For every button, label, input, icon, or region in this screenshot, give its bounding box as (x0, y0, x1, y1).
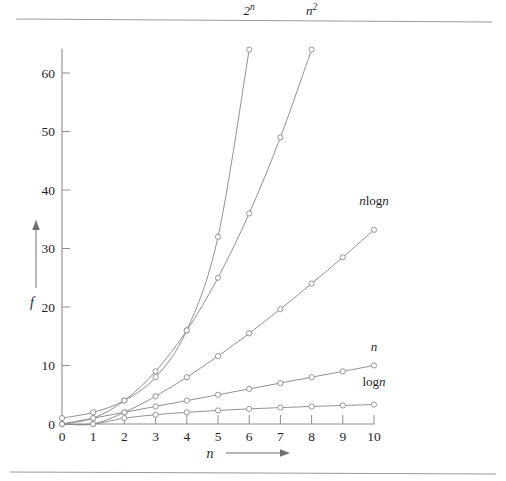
y-tick-label: 50 (42, 124, 56, 139)
data-point-marker (215, 275, 220, 280)
curve-line (62, 50, 249, 419)
data-point-marker (309, 281, 314, 286)
data-point-marker (340, 403, 345, 408)
series-layer (59, 47, 376, 427)
data-point-marker (122, 398, 127, 403)
growth-rate-chart: 0102030405060 012345678910 f n 2nn2nlogn… (0, 0, 506, 481)
data-point-marker (215, 408, 220, 413)
data-point-marker (153, 375, 158, 380)
curve-line (62, 50, 312, 424)
bottom-rule (10, 472, 496, 474)
data-point-marker (340, 255, 345, 260)
x-tick-label: 2 (121, 429, 128, 444)
data-point-marker (215, 234, 220, 239)
data-point-marker (309, 47, 314, 52)
figure-container: 0102030405060 012345678910 f n 2nn2nlogn… (0, 0, 506, 481)
x-tick-label: 1 (90, 429, 97, 444)
x-tick-label: 7 (277, 429, 284, 444)
data-point-marker (122, 410, 127, 415)
data-point-marker (184, 328, 189, 333)
y-tick-label: 60 (42, 66, 56, 81)
series-label-log-n: logn (362, 374, 385, 389)
data-point-marker (247, 406, 252, 411)
data-point-marker (91, 410, 96, 415)
data-point-marker (153, 404, 158, 409)
data-point-marker (91, 416, 96, 421)
y-tick-label: 40 (42, 183, 56, 198)
data-point-marker (215, 392, 220, 397)
data-point-marker (278, 306, 283, 311)
series-label-n-2: n2 (306, 2, 318, 18)
data-point-marker (122, 416, 127, 421)
data-point-marker (278, 380, 283, 385)
data-point-marker (309, 375, 314, 380)
x-axis-annotation: n (207, 446, 291, 461)
data-point-marker (247, 211, 252, 216)
data-point-marker (371, 402, 376, 407)
y-axis-label: f (30, 295, 36, 310)
data-point-marker (278, 405, 283, 410)
x-tick-label: 5 (215, 429, 222, 444)
top-rule (16, 19, 492, 22)
x-tick-label: 10 (367, 429, 381, 444)
series-2-n (59, 47, 251, 421)
data-point-marker (59, 416, 64, 421)
data-point-marker (371, 363, 376, 368)
data-point-marker (309, 404, 314, 409)
data-point-marker (153, 394, 158, 399)
data-point-marker (184, 410, 189, 415)
up-arrow-icon (32, 220, 40, 230)
data-point-marker (340, 369, 345, 374)
data-point-marker (247, 386, 252, 391)
data-point-marker (247, 331, 252, 336)
series-label-2-n: 2n (244, 2, 256, 18)
data-point-marker (59, 421, 64, 426)
right-arrow-icon (280, 449, 290, 457)
data-point-marker (184, 398, 189, 403)
data-point-marker (153, 369, 158, 374)
y-axis-ticks: 0102030405060 (42, 66, 71, 432)
data-point-marker (153, 412, 158, 417)
y-tick-label: 20 (42, 300, 56, 315)
y-tick-label: 10 (42, 358, 56, 373)
data-point-marker (184, 375, 189, 380)
series-label-n: n (371, 339, 378, 354)
data-point-marker (371, 227, 376, 232)
series-label-layer: 2nn2nlognnlogn (244, 2, 389, 389)
series-label-n-log-n: nlogn (359, 193, 389, 208)
data-point-marker (215, 354, 220, 359)
x-tick-label: 0 (59, 429, 66, 444)
x-tick-label: 4 (183, 429, 190, 444)
x-axis-label: n (207, 446, 214, 461)
data-point-marker (247, 47, 252, 52)
y-tick-label: 0 (48, 417, 55, 432)
x-tick-label: 6 (246, 429, 253, 444)
series-n-2 (59, 47, 314, 427)
x-tick-label: 9 (339, 429, 346, 444)
x-tick-label: 8 (308, 429, 315, 444)
y-tick-label: 30 (42, 241, 56, 256)
x-tick-label: 3 (152, 429, 159, 444)
data-point-marker (91, 421, 96, 426)
y-axis-annotation: f (30, 220, 40, 310)
page-rules (10, 19, 496, 474)
data-point-marker (278, 135, 283, 140)
